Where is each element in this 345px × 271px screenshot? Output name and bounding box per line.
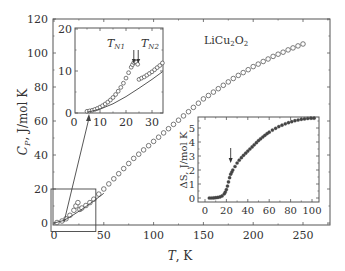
- main-x-axis-label: T, K: [168, 249, 194, 263]
- figure: 050100150200250020406080100120 T, K CP, …: [0, 0, 345, 271]
- data-point: [221, 83, 226, 88]
- data-point: [277, 125, 280, 128]
- x-tick-label: 50: [97, 229, 111, 242]
- data-point: [226, 80, 231, 85]
- data-point: [251, 64, 256, 69]
- data-point: [297, 118, 300, 121]
- x-tick-label: 0: [51, 229, 58, 242]
- y-tick-label: 2: [189, 165, 195, 176]
- y-tick-label: 4: [189, 137, 195, 148]
- data-point: [191, 105, 196, 110]
- data-point: [233, 165, 236, 168]
- data-point: [102, 187, 107, 192]
- y-tick-label: 100: [27, 47, 48, 60]
- y-tick-label: 20: [58, 23, 72, 36]
- data-point: [280, 124, 283, 127]
- data-point: [228, 176, 231, 179]
- data-point: [313, 117, 316, 120]
- y-tick-label: 1: [189, 179, 195, 190]
- y-tick-label: 80: [34, 81, 48, 94]
- y-tick-label: 3: [189, 151, 195, 162]
- y-tick-label: 0: [65, 107, 72, 120]
- data-point: [176, 118, 181, 123]
- data-point: [136, 62, 140, 66]
- data-point: [136, 152, 141, 157]
- data-point: [236, 73, 241, 78]
- data-point: [227, 180, 230, 183]
- data-point: [206, 93, 211, 98]
- data-point: [303, 117, 306, 120]
- inset-entropy-y-label: ΔS, J/mol K: [178, 131, 189, 188]
- data-point: [151, 139, 156, 144]
- data-point: [126, 161, 131, 166]
- x-tick-label: 80: [284, 205, 297, 216]
- data-point: [119, 86, 123, 90]
- x-tick-label: 250: [293, 229, 314, 242]
- data-point: [231, 168, 234, 171]
- data-point: [186, 109, 191, 114]
- x-tick-label: 100: [143, 229, 164, 242]
- inset-entropy-frame: [198, 117, 319, 202]
- data-point: [211, 90, 216, 95]
- data-point: [116, 89, 120, 93]
- data-point: [166, 126, 171, 131]
- data-point: [124, 76, 128, 80]
- y-tick-label: 5: [189, 123, 195, 134]
- data-point: [226, 185, 229, 188]
- data-point: [246, 67, 251, 72]
- data-point: [274, 127, 277, 130]
- data-point: [286, 48, 291, 53]
- data-point: [72, 208, 77, 213]
- x-tick-label: 150: [193, 229, 214, 242]
- x-tick-label: 20: [220, 205, 233, 216]
- data-point: [127, 71, 131, 75]
- x-tick-label: 10: [93, 116, 107, 129]
- data-point: [276, 52, 281, 57]
- data-point: [76, 200, 81, 205]
- data-point: [284, 122, 287, 125]
- data-point: [122, 81, 126, 85]
- data-point: [290, 120, 293, 123]
- y-tick-label: 0: [41, 217, 48, 230]
- data-point: [266, 57, 271, 62]
- data-point: [231, 76, 236, 81]
- y-tick-label: 120: [27, 13, 48, 26]
- data-point: [256, 62, 261, 67]
- data-point: [114, 93, 118, 97]
- y-tick-label: 60: [34, 115, 48, 128]
- y-tick-label: 10: [58, 65, 72, 78]
- compound-label: LiCu2O2: [204, 34, 248, 48]
- data-point: [107, 182, 112, 187]
- data-point: [141, 148, 146, 153]
- x-tick-label: 200: [243, 229, 264, 242]
- x-tick-label: 20: [119, 116, 133, 129]
- data-point: [196, 101, 201, 106]
- data-point: [306, 117, 309, 120]
- data-point: [146, 143, 151, 148]
- x-tick-label: 60: [263, 205, 276, 216]
- x-tick-label: 0: [202, 205, 208, 216]
- data-point: [293, 119, 296, 122]
- data-point: [156, 135, 161, 140]
- data-point: [241, 70, 246, 75]
- data-point: [261, 59, 266, 64]
- main-y-axis-label: CP, J/mol K: [16, 88, 32, 155]
- y-tick-label: 40: [34, 149, 48, 162]
- data-point: [201, 97, 206, 102]
- data-point: [121, 166, 126, 171]
- data-point: [301, 42, 306, 47]
- data-point: [296, 44, 301, 49]
- data-point: [131, 156, 136, 161]
- data-point: [271, 129, 274, 132]
- data-point: [225, 188, 228, 191]
- data-point: [112, 177, 117, 182]
- data-point: [236, 161, 239, 164]
- x-tick-label: 40: [241, 205, 254, 216]
- data-point: [268, 131, 271, 134]
- data-point: [161, 61, 165, 65]
- data-point: [271, 54, 276, 59]
- x-tick-label: 30: [145, 116, 159, 129]
- data-point: [161, 131, 166, 136]
- x-tick-label: 100: [302, 205, 321, 216]
- data-point: [181, 114, 186, 119]
